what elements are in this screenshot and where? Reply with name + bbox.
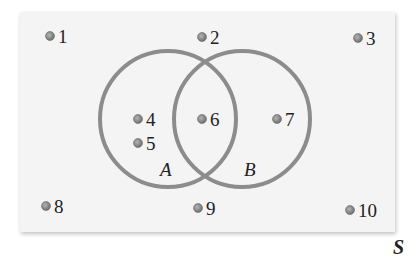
set-a-label: A: [158, 159, 172, 180]
element-label: 10: [358, 200, 377, 221]
element-dot-icon: [46, 32, 55, 41]
element-dot-icon: [354, 34, 363, 43]
element-label: 8: [54, 196, 64, 217]
venn-diagram: AB 12345678910 S: [0, 0, 419, 262]
element-dot-icon: [273, 115, 282, 124]
element-dot-icon: [194, 204, 203, 213]
element-label: 9: [206, 198, 216, 219]
element-label: 2: [210, 27, 220, 48]
element-label: 1: [58, 26, 68, 47]
element-label: 5: [146, 133, 156, 154]
element-label: 3: [366, 28, 376, 49]
element-dot-icon: [42, 202, 51, 211]
universe-label: S: [393, 236, 404, 258]
element-dot-icon: [346, 206, 355, 215]
element-label: 4: [146, 109, 156, 130]
element-dot-icon: [134, 139, 143, 148]
element-dot-icon: [134, 115, 143, 124]
element-dot-icon: [198, 33, 207, 42]
element-dot-icon: [198, 115, 207, 124]
element-label: 6: [210, 109, 220, 130]
set-b-label: B: [244, 159, 256, 180]
element-label: 7: [285, 109, 295, 130]
